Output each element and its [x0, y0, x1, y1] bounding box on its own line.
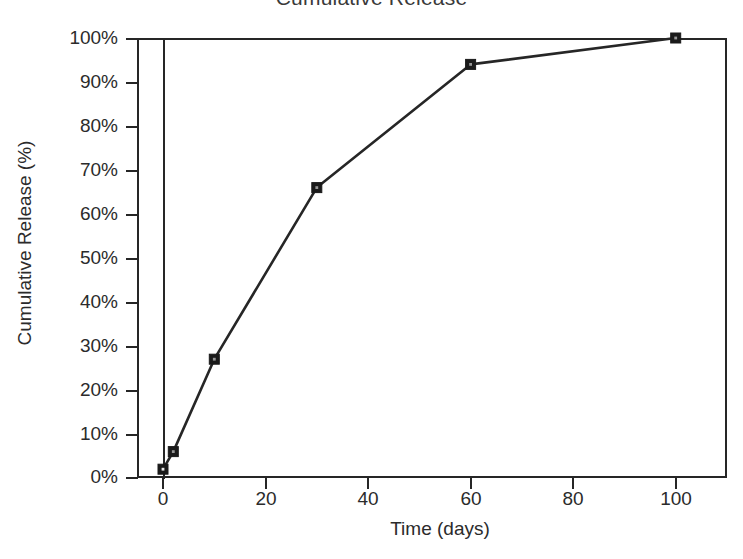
- y-tick-mark: [126, 82, 138, 84]
- x-tick-label: 20: [226, 488, 306, 510]
- y-tick-label: 0%: [32, 466, 118, 488]
- y-tick-label: 20%: [32, 379, 118, 401]
- y-tick-mark: [126, 346, 138, 348]
- y-tick-mark: [126, 38, 138, 40]
- y-tick-label: 90%: [32, 71, 118, 93]
- y-tick-mark: [126, 258, 138, 260]
- y-tick-label: 10%: [32, 423, 118, 445]
- y-tick-mark: [126, 170, 138, 172]
- y-tick-label: 100%: [32, 27, 118, 49]
- plot-area: [137, 38, 727, 478]
- cumulative-release-chart: Cumulative Release Cumulative Release (%…: [0, 0, 743, 559]
- x-tick-label: 80: [533, 488, 613, 510]
- y-tick-mark: [126, 302, 138, 304]
- x-tick-label: 100: [636, 488, 716, 510]
- y-tick-label: 30%: [32, 335, 118, 357]
- y-tick-label: 40%: [32, 291, 118, 313]
- y-tick-mark: [126, 214, 138, 216]
- x-tick-label: 60: [431, 488, 511, 510]
- x-tick-label: 0: [123, 488, 203, 510]
- y-tick-label: 60%: [32, 203, 118, 225]
- y-tick-label: 50%: [32, 247, 118, 269]
- x-tick-label: 40: [328, 488, 408, 510]
- y-tick-label: 80%: [32, 115, 118, 137]
- y-tick-mark: [126, 434, 138, 436]
- y-tick-label: 70%: [32, 159, 118, 181]
- x-axis-title: Time (days): [137, 518, 743, 540]
- chart-title: Cumulative Release: [0, 0, 743, 10]
- y-tick-mark: [126, 477, 138, 479]
- y-tick-mark: [126, 390, 138, 392]
- y-tick-mark: [126, 126, 138, 128]
- y-axis-line: [163, 38, 165, 479]
